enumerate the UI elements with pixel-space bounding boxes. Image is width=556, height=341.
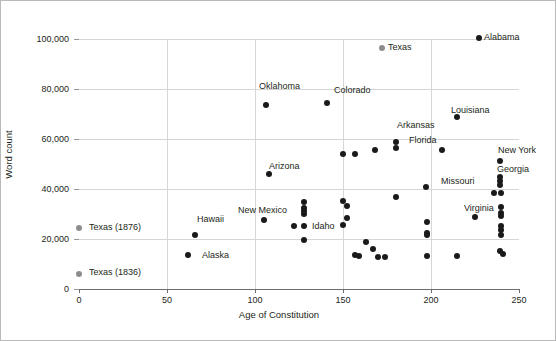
y-axis-tick xyxy=(74,189,79,190)
scatter-plot-figure: Word count Age of Constitution 020,00040… xyxy=(0,0,556,341)
y-axis-tick xyxy=(74,39,79,40)
y-axis-tick xyxy=(74,239,79,240)
data-point-alaska xyxy=(185,252,191,258)
data-point-oklahoma xyxy=(263,102,269,108)
point-label-virginia: Virginia xyxy=(464,203,494,213)
data-point xyxy=(344,215,350,221)
x-axis-tick xyxy=(431,289,432,293)
y-axis-tick-label-text: 40,000 xyxy=(41,185,69,194)
gridline-vertical xyxy=(431,39,432,289)
data-point-virginia xyxy=(472,214,478,220)
point-label-alaska: Alaska xyxy=(202,250,229,260)
data-point xyxy=(344,203,350,209)
y-axis-tick-label-text: 80,000 xyxy=(41,85,69,94)
point-label-arkansas: Arkansas xyxy=(397,120,435,130)
data-point xyxy=(301,223,307,229)
data-point xyxy=(498,204,504,210)
y-axis-tick-label: 80,000 xyxy=(1,85,69,94)
point-label-louisiana: Louisiana xyxy=(451,105,490,115)
data-point xyxy=(498,190,504,196)
data-point xyxy=(491,190,497,196)
data-point xyxy=(291,223,297,229)
x-axis-tick-label: 100 xyxy=(235,295,275,305)
y-axis-tick-label: 40,000 xyxy=(1,185,69,194)
x-axis-tick-label: 250 xyxy=(499,295,539,305)
data-point xyxy=(498,213,504,219)
y-axis-tick-label: 0 xyxy=(1,285,69,294)
point-label-texas-1876: Texas (1876) xyxy=(89,222,141,232)
data-point xyxy=(375,254,381,260)
data-point xyxy=(372,147,378,153)
point-label-alabama: Alabama xyxy=(484,32,520,42)
gridline-horizontal xyxy=(79,189,519,190)
data-point xyxy=(500,251,506,257)
data-point-colorado xyxy=(324,100,330,106)
y-axis-tick-label-text: 20,000 xyxy=(41,235,69,244)
gridline-vertical xyxy=(167,39,168,289)
data-point xyxy=(356,253,362,259)
data-point xyxy=(424,253,430,259)
point-label-new-mexico: New Mexico xyxy=(238,205,287,215)
data-point xyxy=(340,151,346,157)
data-point-new-mexico xyxy=(261,217,267,223)
data-point-new-york xyxy=(497,158,503,164)
x-axis-tick xyxy=(79,289,80,293)
data-point xyxy=(370,246,376,252)
data-point xyxy=(498,232,504,238)
point-label-hawaii: Hawaii xyxy=(197,214,224,224)
data-point xyxy=(393,194,399,200)
data-point xyxy=(340,222,346,228)
data-point-missouri xyxy=(423,184,429,190)
y-axis-tick-label: 100,000 xyxy=(1,35,69,44)
data-point-georgia xyxy=(497,174,503,180)
gridline-vertical xyxy=(343,39,344,289)
x-axis-tick-label: 150 xyxy=(323,295,363,305)
data-point-alabama xyxy=(476,35,482,41)
x-axis-tick-label: 200 xyxy=(411,295,451,305)
point-label-missouri: Missouri xyxy=(441,176,475,186)
x-axis-tick-label: 50 xyxy=(147,295,187,305)
y-axis-tick-label-text: 100,000 xyxy=(36,35,69,44)
data-point-texas xyxy=(379,45,385,51)
data-point xyxy=(363,239,369,245)
point-label-arizona: Arizona xyxy=(269,161,300,171)
data-point-texas-1836 xyxy=(76,271,82,277)
y-axis-tick-label-text: 60,000 xyxy=(41,135,69,144)
y-axis-tick-label: 60,000 xyxy=(1,135,69,144)
y-axis-tick-label: 20,000 xyxy=(1,235,69,244)
data-point xyxy=(439,147,445,153)
gridline-horizontal xyxy=(79,239,519,240)
data-point xyxy=(424,232,430,238)
point-label-georgia: Georgia xyxy=(497,164,529,174)
data-point xyxy=(352,151,358,157)
gridline-horizontal xyxy=(79,139,519,140)
data-point-arizona xyxy=(266,171,272,177)
point-label-florida: Florida xyxy=(409,135,437,145)
gridline-horizontal xyxy=(79,39,519,40)
data-point-idaho xyxy=(301,211,307,217)
y-axis-tick xyxy=(74,89,79,90)
point-label-idaho: Idaho xyxy=(312,221,335,231)
x-axis-tick-label: 0 xyxy=(59,295,99,305)
data-point-texas-1876 xyxy=(76,225,82,231)
data-point xyxy=(497,182,503,188)
y-axis-tick-label-text: 0 xyxy=(64,285,69,294)
point-label-colorado: Colorado xyxy=(334,85,371,95)
point-label-new-york: New York xyxy=(498,145,536,155)
point-label-oklahoma: Oklahoma xyxy=(259,81,300,91)
data-point xyxy=(382,254,388,260)
data-point xyxy=(301,237,307,243)
x-axis-line xyxy=(79,289,520,290)
x-axis-title: Age of Constitution xyxy=(1,309,556,320)
data-point-florida xyxy=(393,145,399,151)
data-point xyxy=(454,253,460,259)
y-axis-tick xyxy=(74,139,79,140)
point-label-texas-1836: Texas (1836) xyxy=(89,267,141,277)
x-axis-tick xyxy=(167,289,168,293)
data-point-hawaii xyxy=(192,232,198,238)
x-axis-tick xyxy=(519,289,520,293)
gridline-vertical xyxy=(255,39,256,289)
data-point xyxy=(424,219,430,225)
x-axis-tick xyxy=(343,289,344,293)
point-label-texas: Texas xyxy=(388,42,412,52)
